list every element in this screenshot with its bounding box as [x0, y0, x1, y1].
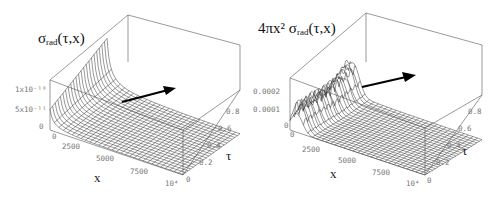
y-tick: 0.6: [218, 124, 232, 133]
x-tick: 10⁴: [406, 179, 420, 188]
x-tick: 2500: [62, 142, 81, 151]
y-tick: 0.6: [458, 124, 472, 133]
x-tick: 5000: [338, 156, 357, 165]
y-tick: 0.2: [199, 158, 213, 167]
x-tick: 0: [290, 130, 295, 139]
z-tick: 5x10⁻¹¹: [15, 105, 47, 114]
direction-arrow: [362, 72, 416, 87]
y-tick: 0.2: [436, 158, 450, 167]
direction-arrow: [122, 86, 176, 102]
x-tick: 0: [52, 132, 57, 141]
x-tick: 2500: [302, 145, 321, 154]
chart-title-right: 4πx² σrad(τ,x): [258, 20, 336, 37]
x-tick: 7500: [372, 168, 391, 177]
x-tick: 7500: [130, 167, 149, 176]
x-tick: 5000: [96, 154, 115, 163]
y-tick: 0.8: [226, 107, 240, 116]
x-tick: 10⁴: [165, 179, 179, 188]
y-axis-label: τ: [226, 148, 231, 163]
y-axis-label: τ: [462, 143, 467, 158]
z-tick: 0.0001: [253, 105, 280, 114]
z-tick: 0: [39, 122, 44, 131]
x-axis-label: x: [330, 166, 337, 181]
chart-title-left: σrad(τ,x): [38, 30, 85, 47]
z-tick: 0: [284, 121, 289, 130]
chart-right-4pi-x2-sigma-rad: 0.0002 0.0001 0 0 2500 5000 7500 10⁴ 0 0…: [250, 0, 500, 201]
x-axis-label: x: [94, 170, 101, 185]
y-tick: 0.4: [207, 141, 221, 150]
y-tick: 0.8: [468, 107, 482, 116]
z-tick: 1x10⁻¹⁰: [15, 85, 47, 94]
y-tick: 0: [186, 175, 191, 184]
y-tick: 0.4: [447, 141, 461, 150]
z-tick: 0.0002: [253, 87, 280, 96]
chart-left-sigma-rad: 1x10⁻¹⁰ 5x10⁻¹¹ 0 0 2500 5000 7500 10⁴ 0…: [0, 0, 250, 201]
y-tick: 0: [427, 176, 432, 185]
